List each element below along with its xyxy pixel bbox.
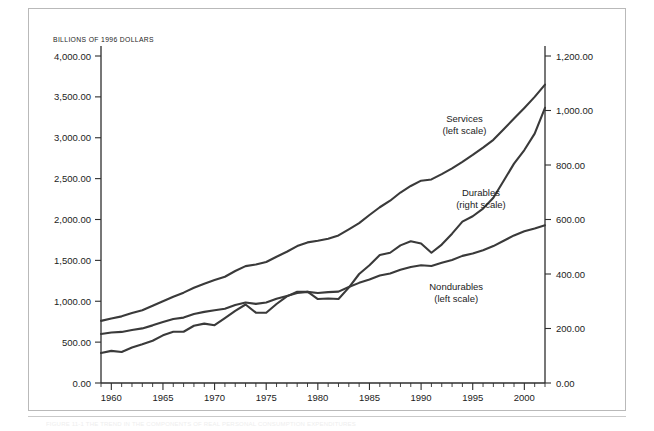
x-axis-tick-label: 1990 (411, 392, 432, 403)
left-axis-tick-label: 4,000.00 (54, 51, 91, 62)
caption-divider (28, 416, 626, 417)
right-axis-tick-label: 600.00 (556, 214, 585, 225)
left-axis-tick-label: 1,000.00 (54, 296, 91, 307)
annotation-services-title: Services (446, 113, 483, 124)
annotation-nondurables-title: Nondurables (429, 281, 483, 292)
x-axis-tick-label: 2000 (514, 392, 535, 403)
x-axis-tick-label: 1985 (359, 392, 380, 403)
chart-axes (95, 46, 551, 390)
annotation-durables-title: Durables (462, 187, 500, 198)
figure-root: 0.00500.001,000.001,500.002,000.002,500.… (0, 0, 654, 431)
series-line-nondurables (101, 225, 545, 334)
x-axis-tick-label: 1965 (152, 392, 173, 403)
right-axis-tick-label: 200.00 (556, 323, 585, 334)
right-axis-tick-label: 400.00 (556, 269, 585, 280)
annotation-services-scale: (left scale) (443, 125, 487, 136)
left-axis-tick-label: 500.00 (62, 337, 91, 348)
consumption-expenditures-chart: 0.00500.001,000.001,500.002,000.002,500.… (0, 0, 654, 431)
right-axis-tick-label: 1,000.00 (556, 105, 593, 116)
right-axis-tick-label: 0.00 (556, 378, 575, 389)
left-axis-tick-label: 3,500.00 (54, 91, 91, 102)
chart-series-annotations: Services(left scale)Durables(right scale… (429, 113, 506, 304)
y-axis-units-label: BILLIONS OF 1996 DOLLARS (53, 36, 154, 43)
series-line-durables (101, 108, 545, 353)
x-axis-tick-label: 1995 (462, 392, 483, 403)
x-axis-tick-label: 1975 (256, 392, 277, 403)
right-axis-tick-label: 800.00 (556, 160, 585, 171)
annotation-nondurables-scale: (left scale) (434, 293, 478, 304)
x-axis-tick-label: 1980 (307, 392, 328, 403)
right-axis-tick-label: 1,200.00 (556, 51, 593, 62)
left-axis-tick-label: 2,500.00 (54, 173, 91, 184)
left-axis-tick-label: 3,000.00 (54, 132, 91, 143)
figure-caption: FIGURE 11-1 THE TREND IN THE COMPONENTS … (46, 421, 616, 427)
left-axis-tick-label: 1,500.00 (54, 255, 91, 266)
annotation-durables-scale: (right scale) (456, 199, 506, 210)
left-axis-tick-label: 0.00 (73, 378, 92, 389)
x-axis-tick-label: 1960 (101, 392, 122, 403)
left-axis-tick-label: 2,000.00 (54, 214, 91, 225)
x-axis-tick-label: 1970 (204, 392, 225, 403)
